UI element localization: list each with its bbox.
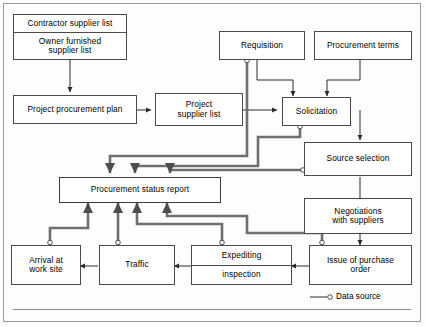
- legend-marker-icon: [328, 295, 333, 300]
- node-contractor-supplier-list: Contractor supplier list: [14, 15, 126, 32]
- cell-project-procurement-plan: Project procurement plan: [14, 96, 136, 123]
- label-contractor-supplier-list: Contractor supplier list: [28, 19, 113, 28]
- cell-project-supplier-list: Project supplier list: [156, 94, 242, 125]
- label-source-selection: Source selection: [327, 154, 390, 163]
- edge-ds-source-selection-to-status: [170, 170, 302, 173]
- cell-issue-of-purchase-order: Issue of purchase order: [310, 246, 411, 284]
- label-negotiations-line2: with suppliers: [332, 216, 384, 225]
- label-arrival-line2: work site: [29, 265, 63, 274]
- edge-requisition-to-solicitation: [257, 60, 293, 96]
- cell-source-selection: Source selection: [305, 143, 411, 175]
- legend-text: Data source: [336, 291, 381, 301]
- cell-traffic: Traffic: [100, 246, 174, 284]
- node-issue-of-purchase-order: Issue of purchase order: [309, 245, 412, 285]
- node-procurement-terms: Procurement terms: [314, 31, 412, 60]
- label-traffic: Traffic: [125, 260, 148, 269]
- cell-negotiations-with-suppliers: Negotiations with suppliers: [305, 199, 411, 233]
- edge-ds-expediting-to-status: [137, 203, 222, 244]
- label-owner-furnished-line2: supplier list: [49, 46, 92, 55]
- diagram-canvas: Contractor supplier list Owner furnished…: [0, 0, 426, 327]
- label-procurement-terms: Procurement terms: [327, 41, 399, 50]
- cell-procurement-status-report: Procurement status report: [60, 178, 220, 202]
- node-requisition: Requisition: [219, 31, 305, 60]
- label-issue-purchase-line2: order: [351, 265, 371, 274]
- cell-procurement-terms: Procurement terms: [315, 32, 411, 59]
- node-negotiations-with-suppliers: Negotiations with suppliers: [304, 198, 412, 234]
- cell-expediting: Expediting: [192, 246, 291, 265]
- label-project-supplier-list-line2: supplier list: [178, 110, 221, 119]
- label-solicitation: Solicitation: [296, 107, 337, 116]
- legend-divider: [13, 309, 411, 310]
- legend-label: Data source: [336, 291, 381, 301]
- edge-ds-arrival-to-status: [50, 203, 88, 244]
- node-project-supplier-list: Project supplier list: [155, 93, 243, 126]
- node-traffic: Traffic: [99, 245, 175, 285]
- node-owner-furnished-supplier-list: Owner furnished supplier list: [14, 32, 126, 59]
- label-requisition: Requisition: [241, 41, 283, 50]
- node-solicitation: Solicitation: [282, 97, 351, 126]
- label-expediting: Expediting: [222, 251, 262, 260]
- node-source-selection: Source selection: [304, 142, 412, 176]
- data-source-connectors: [50, 62, 322, 244]
- node-expediting-inspection: Expediting inspection: [191, 245, 292, 285]
- label-inspection: inspection: [222, 270, 260, 279]
- cell-solicitation: Solicitation: [283, 98, 350, 125]
- cell-inspection: inspection: [192, 265, 291, 284]
- label-procurement-status-report: Procurement status report: [91, 185, 189, 194]
- cell-requisition: Requisition: [220, 32, 304, 59]
- label-project-procurement-plan: Project procurement plan: [27, 105, 122, 114]
- node-supplier-lists: Contractor supplier list Owner furnished…: [13, 14, 127, 60]
- node-procurement-status-report: Procurement status report: [59, 177, 221, 203]
- edge-terms-to-solicitation: [327, 60, 360, 96]
- node-project-procurement-plan: Project procurement plan: [13, 95, 137, 124]
- node-arrival-at-work-site: Arrival at work site: [11, 245, 81, 285]
- edge-ds-solicitation-to-status: [135, 128, 300, 173]
- cell-arrival-at-work-site: Arrival at work site: [12, 246, 80, 284]
